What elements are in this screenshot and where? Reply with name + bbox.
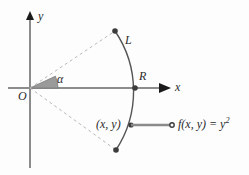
arc-top-endpoint-marker	[112, 28, 118, 34]
arc-curve	[115, 31, 134, 150]
formula-base: f(x, y) = y	[178, 117, 225, 131]
x-axis-label: x	[175, 81, 180, 93]
geometry-figure: y x O α L R (x, y) f(x, y) = y2	[0, 0, 249, 175]
x-axis-arrowhead	[159, 83, 171, 93]
radius-point-marker	[132, 85, 138, 91]
dashed-ray-upper	[30, 31, 115, 88]
formula-exponent: 2	[225, 116, 229, 125]
origin-label: O	[18, 90, 27, 102]
y-axis-arrowhead	[26, 11, 34, 20]
function-formula-label: f(x, y) = y2	[178, 117, 229, 130]
formula-connector-endpoint-marker	[170, 123, 174, 127]
y-axis-label: y	[38, 10, 43, 22]
angle-alpha-label: α	[57, 73, 63, 85]
arc-length-label: L	[125, 34, 132, 46]
diagram-canvas	[0, 0, 249, 175]
angle-wedge	[30, 76, 58, 88]
sample-point-label: (x, y)	[96, 118, 121, 130]
radius-label: R	[139, 70, 146, 82]
arc-bottom-endpoint-marker	[113, 147, 119, 153]
